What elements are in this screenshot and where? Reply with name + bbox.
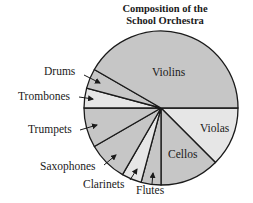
- slice-label-trumpets: Trumpets: [28, 123, 72, 136]
- slice-label-trombones: Trombones: [18, 90, 70, 102]
- slice-label-drums: Drums: [44, 65, 76, 77]
- slice-label-flutes: Flutes: [136, 184, 165, 196]
- slice-label-violas: Violas: [200, 122, 230, 134]
- slice-label-clarinets: Clarinets: [83, 178, 125, 190]
- pie-chart: ViolasCellosFlutesClarinetsSaxophonesTru…: [0, 0, 253, 203]
- slice-label-violins: Violins: [152, 66, 186, 78]
- slice-label-cellos: Cellos: [168, 148, 198, 160]
- slice-label-saxophones: Saxophones: [40, 160, 96, 173]
